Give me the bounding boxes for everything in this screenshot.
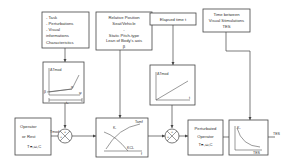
perturbed-operator-line: Operator — [197, 134, 214, 139]
junction2-sign: + — [167, 135, 169, 139]
task-box-line: - Visual — [46, 27, 60, 32]
position-box-line: Lean of Body's axis — [106, 38, 142, 43]
block-diagram: - Task - Perturbations - Visual informat… — [0, 0, 286, 165]
position-box-line: Seat/Vehicle — [112, 21, 136, 26]
junction1-sign: + — [64, 130, 66, 134]
position-box-line: Relative Position — [108, 15, 140, 20]
summing-junction-1: + + — [58, 129, 72, 143]
operator-line: or Rest — [22, 134, 36, 139]
junction1-sign: + — [60, 135, 62, 139]
perturbed-operator-line: Perturbated — [195, 126, 218, 131]
task-box-line: - Task — [46, 15, 58, 20]
time-between-box: Time between Visual Stimulations TES — [203, 9, 250, 32]
task-box-line: informations — [46, 33, 69, 38]
time-graph: ΔTmod t — [150, 65, 195, 105]
tes-graph-x-label: TES — [253, 151, 261, 155]
crossover-curve1-label: Tamf — [135, 120, 143, 124]
tes-graph: K₁ TES — [229, 120, 268, 155]
psi-graph-origin-label: β — [44, 90, 46, 94]
crossover-graph: Kᵢ Tamf KCL f — [96, 118, 148, 157]
task-box-line: Characteristics — [46, 40, 74, 45]
psi-graph-y-label: ΔTmod — [50, 68, 62, 72]
psi-graph-angle-label: α — [71, 85, 73, 89]
crossover-x-label: f — [141, 152, 142, 156]
summing-junction-2: + + — [165, 129, 179, 143]
operator-block: Operator or Rest Tₘ,ω,C — [15, 118, 51, 155]
time-graph-x-label: t — [189, 96, 190, 100]
junction2-sign: + — [171, 130, 173, 134]
operator-line: Tₘ,ω,C — [27, 144, 41, 149]
elapsed-time-label: Elapsed time t — [160, 17, 187, 22]
operator-line: Operator — [20, 124, 37, 129]
psi-graph-x-label: ψ — [79, 91, 82, 95]
time-graph-y-label: ΔTmod — [157, 72, 169, 76]
tmod-signal-label: Tmod — [50, 130, 59, 134]
crossover-y-label: Kᵢ — [113, 126, 116, 130]
time-between-line: TES — [222, 24, 230, 29]
output-label: TES — [273, 132, 281, 136]
time-between-line: Visual Stimulations — [209, 18, 244, 23]
perturbed-operator-line: Tₘ,ω,C — [198, 142, 212, 147]
time-between-line: Time between — [213, 12, 240, 17]
elapsed-time-box: Elapsed time t — [150, 13, 196, 25]
task-box-line: - Perturbations — [46, 21, 73, 26]
position-box: Relative Position Seat/Vehicle - Static … — [96, 12, 152, 50]
task-box: - Task - Perturbations - Visual informat… — [42, 12, 89, 48]
perturbed-operator-block: Perturbated Operator Tₘ,ω,C — [188, 120, 223, 155]
psi-graph: ΔTmod ψ t₀ α β — [43, 62, 84, 105]
crossover-curve2-label: KCL — [127, 146, 134, 150]
